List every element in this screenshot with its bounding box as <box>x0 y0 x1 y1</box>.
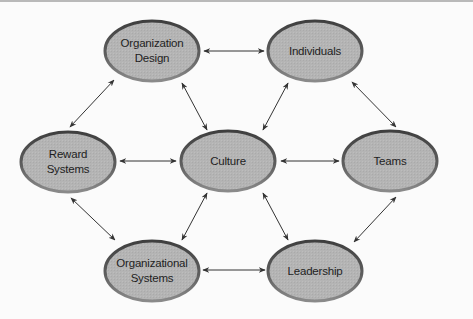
node-label: Leadership <box>288 265 343 277</box>
node-individuals: Individuals <box>268 21 362 81</box>
edge-culture-leadership <box>263 193 288 240</box>
node-label: Systems <box>47 163 90 175</box>
edge-orgdesign-culture <box>182 83 207 130</box>
edge-orgdesign-reward <box>70 80 114 127</box>
edge-reward-orgsystems <box>71 198 115 240</box>
node-label: Organizational <box>116 257 187 269</box>
node-label: Organization <box>121 37 184 49</box>
node-label: Culture <box>210 155 246 167</box>
node-organization-design: Organization Design <box>105 21 199 81</box>
node-leadership: Leadership <box>268 241 362 301</box>
diagram-canvas: Organization Design Individuals Reward S… <box>0 0 473 319</box>
node-label: Design <box>135 52 170 64</box>
node-label: Reward <box>49 148 87 160</box>
edge-individuals-culture <box>263 83 288 130</box>
edge-teams-leadership <box>354 197 396 242</box>
node-label: Teams <box>374 155 407 167</box>
node-label: Individuals <box>289 45 342 57</box>
edge-culture-orgsystems <box>182 193 207 240</box>
node-culture: Culture <box>181 131 275 191</box>
organization-diagram: Organization Design Individuals Reward S… <box>0 0 473 319</box>
edge-individuals-teams <box>352 82 396 127</box>
node-reward-systems: Reward Systems <box>21 132 115 192</box>
node-teams: Teams <box>343 131 437 191</box>
node-organizational-systems: Organizational Systems <box>105 241 199 301</box>
node-label: Systems <box>131 272 174 284</box>
